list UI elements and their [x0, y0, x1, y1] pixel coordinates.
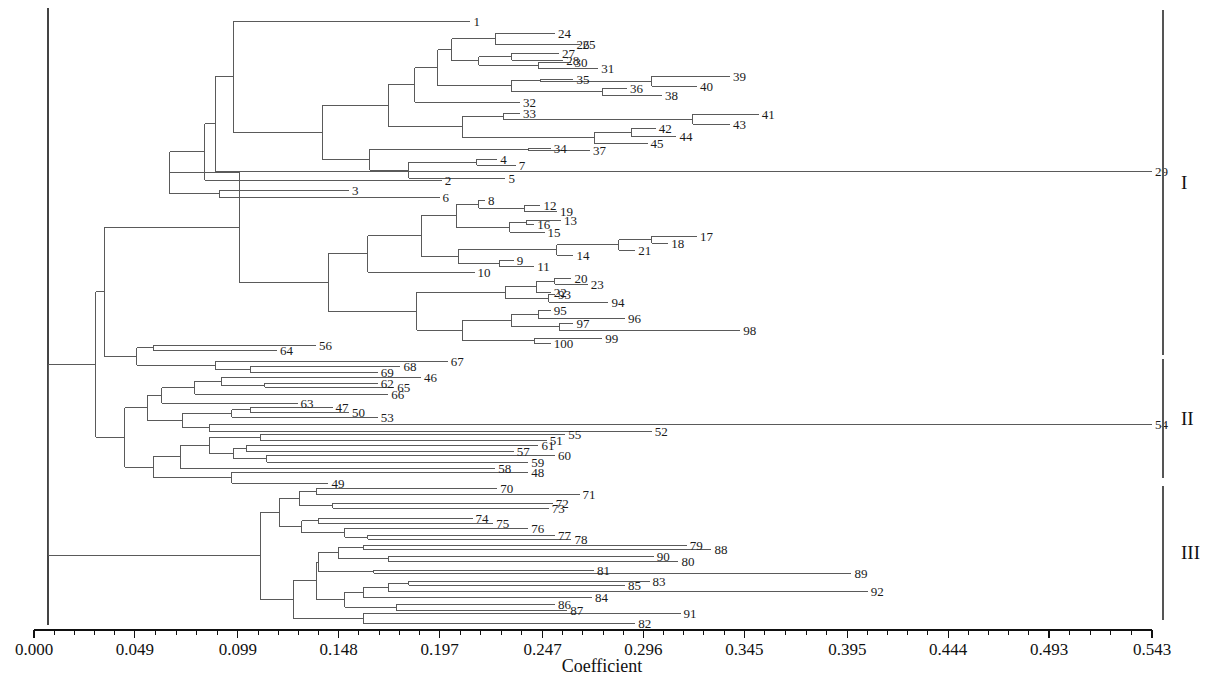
leaf-label: 4 [500, 152, 507, 167]
leaf-label: 14 [576, 248, 590, 263]
leaf-label: 85 [628, 578, 641, 593]
leaf-label: 67 [451, 354, 465, 369]
leaf-label: 15 [548, 225, 561, 240]
leaf-label: 90 [657, 549, 670, 564]
axis-tick-label: 0.493 [1030, 640, 1068, 659]
leaf-label: 63 [301, 396, 314, 411]
axis-tick-label: 0.395 [828, 640, 866, 659]
leaf-label: 93 [558, 287, 571, 302]
axis-tick-label: 0.543 [1133, 640, 1171, 659]
leaf-label: 11 [537, 259, 550, 274]
leaf-label: 31 [601, 61, 614, 76]
dendrogram-figure: 1242526272830313539403638323341434244453… [0, 0, 1205, 685]
dendrogram-svg: 1242526272830313539403638323341434244453… [0, 0, 1205, 685]
leaf-label: 37 [593, 143, 607, 158]
leaf-label: 17 [700, 229, 714, 244]
tree-branches [48, 21, 1152, 623]
axis-tick-label: 0.197 [420, 640, 459, 659]
leaf-label: 88 [714, 542, 727, 557]
leaf-label: 98 [743, 323, 756, 338]
leaf-label: 18 [671, 236, 684, 251]
leaf-label: 49 [331, 476, 344, 491]
leaf-label: 61 [541, 438, 554, 453]
leaf-label: 44 [679, 129, 693, 144]
leaf-label: 96 [628, 311, 642, 326]
leaf-label: 10 [478, 265, 491, 280]
leaf-label: 43 [733, 117, 746, 132]
axis-tick-label: 0.049 [116, 640, 154, 659]
leaf-label: 23 [591, 277, 604, 292]
axis-tick-label: 0.000 [15, 640, 53, 659]
leaf-label: 60 [558, 448, 571, 463]
leaf-label: 71 [583, 487, 596, 502]
leaf-label: 33 [523, 106, 536, 121]
leaf-label: 48 [531, 465, 544, 480]
leaf-label: 38 [665, 88, 678, 103]
leaf-label: 35 [576, 72, 589, 87]
cluster-labels: IIIIII [1181, 172, 1200, 564]
leaf-label: 89 [854, 566, 867, 581]
leaf-label: 36 [630, 81, 644, 96]
leaf-label: 75 [496, 516, 509, 531]
leaf-label: 21 [638, 243, 651, 258]
leaf-label: 78 [574, 532, 587, 547]
leaf-label: 66 [391, 387, 405, 402]
leaf-label: 39 [733, 69, 746, 84]
axis-tick-label: 0.345 [725, 640, 763, 659]
x-axis [34, 630, 1152, 638]
leaf-label: 20 [574, 271, 587, 286]
leaf-label: 9 [517, 253, 524, 268]
axis-tick-label: 0.099 [219, 640, 257, 659]
leaf-label: 55 [568, 427, 581, 442]
leaf-label: 92 [871, 584, 884, 599]
leaf-label: 40 [700, 79, 713, 94]
leaf-label: 34 [554, 141, 568, 156]
leaf-label: 87 [570, 603, 584, 618]
axis-title: Coefficient [562, 656, 643, 676]
leaf-label: 46 [424, 370, 438, 385]
leaf-label: 7 [519, 158, 526, 173]
leaf-label: 97 [576, 316, 590, 331]
leaf-label: 74 [476, 511, 490, 526]
leaf-label: 53 [381, 410, 394, 425]
leaf-label: 6 [443, 190, 450, 205]
leaf-label: 1 [473, 14, 480, 29]
leaf-label: 73 [552, 501, 565, 516]
leaf-label: 56 [319, 338, 333, 353]
leaf-label: 50 [352, 405, 365, 420]
leaf-label: 24 [558, 26, 572, 41]
leaf-label: 82 [638, 616, 651, 631]
leaf-label: 5 [508, 171, 514, 186]
leaf-label: 77 [558, 528, 572, 543]
leaf-label: 95 [554, 303, 567, 318]
cluster-label: III [1181, 542, 1200, 563]
leaf-label: 8 [488, 193, 495, 208]
leaf-label: 83 [653, 574, 666, 589]
leaf-label: 57 [517, 444, 531, 459]
axis-tick-label: 0.444 [929, 640, 968, 659]
leaf-label: 30 [574, 55, 587, 70]
leaf-label: 58 [498, 461, 511, 476]
leaf-label: 2 [445, 173, 452, 188]
axis-tick-label: 0.148 [320, 640, 358, 659]
leaf-label: 45 [651, 136, 664, 151]
leaf-label: 41 [762, 107, 775, 122]
leaf-label: 54 [1155, 417, 1169, 432]
leaf-labels: 1242526272830313539403638323341434244453… [280, 14, 1169, 631]
leaf-label: 80 [681, 554, 694, 569]
leaf-label: 99 [605, 331, 618, 346]
leaf-label: 3 [352, 183, 359, 198]
leaf-label: 68 [403, 359, 416, 374]
leaf-label: 42 [659, 121, 672, 136]
leaf-label: 79 [690, 538, 703, 553]
leaf-label: 29 [1155, 164, 1168, 179]
leaf-label: 12 [543, 198, 556, 213]
axis-tick-label: 0.247 [523, 640, 562, 659]
leaf-label: 100 [554, 336, 574, 351]
leaf-label: 81 [597, 563, 610, 578]
cluster-label: I [1181, 172, 1187, 193]
leaf-label: 94 [611, 295, 625, 310]
leaf-label: 26 [576, 37, 590, 52]
leaf-label: 76 [531, 521, 545, 536]
leaf-label: 91 [684, 606, 697, 621]
